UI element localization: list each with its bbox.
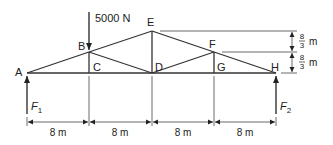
- joint-label-G: G: [217, 61, 226, 73]
- reaction-label-F2: F2: [280, 100, 292, 115]
- vertical-dimensions: 8 3 m 8 3 m: [160, 31, 317, 73]
- vertical-dim-label-bottom: 8 3 m: [299, 53, 317, 71]
- svg-text:m: m: [309, 36, 317, 47]
- span-label: 8 m: [112, 127, 129, 138]
- vertical-dim-label-top: 8 3 m: [299, 32, 317, 50]
- joint-label-H: H: [271, 61, 279, 73]
- truss-diagram: A B C D E F G H 5000 N F1 F2 8 m 8 m 8 m…: [0, 0, 333, 145]
- horizontal-dimensions: 8 m 8 m 8 m 8 m: [27, 76, 276, 138]
- applied-load: 5000 N: [89, 12, 131, 50]
- member-EF: [152, 31, 214, 52]
- member-BE: [89, 31, 152, 52]
- svg-text:8: 8: [300, 32, 305, 41]
- span-label: 8 m: [237, 127, 254, 138]
- reaction-label-F1: F1: [31, 100, 43, 115]
- joint-label-F: F: [209, 38, 216, 50]
- svg-text:8: 8: [300, 53, 305, 62]
- svg-text:3: 3: [300, 41, 305, 50]
- joint-label-C: C: [93, 61, 101, 73]
- joint-label-D: D: [155, 61, 163, 73]
- joint-label-A: A: [15, 66, 23, 78]
- member-AB: [27, 52, 89, 73]
- load-label: 5000 N: [95, 12, 131, 24]
- span-label: 8 m: [175, 127, 192, 138]
- reaction-F1: F1: [27, 76, 43, 115]
- joint-labels: A B C D E F G H: [15, 16, 279, 78]
- svg-text:3: 3: [300, 62, 305, 71]
- svg-text:m: m: [309, 57, 317, 68]
- joint-label-E: E: [147, 16, 154, 28]
- reaction-F2: F2: [276, 76, 292, 115]
- span-label: 8 m: [50, 127, 67, 138]
- joint-label-B: B: [78, 40, 85, 52]
